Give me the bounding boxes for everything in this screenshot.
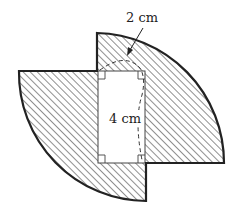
diagram-svg: 2 cm 4 cm: [0, 0, 239, 216]
label-4cm: 4 cm: [109, 111, 141, 126]
label-2cm: 2 cm: [126, 10, 158, 25]
geometry-diagram: 2 cm 4 cm: [0, 0, 239, 216]
